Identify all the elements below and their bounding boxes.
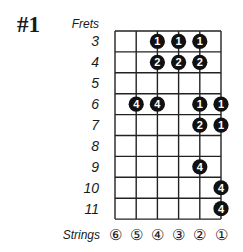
string-number-6: ⑥ bbox=[108, 227, 123, 242]
finger-number: 1 bbox=[218, 119, 224, 131]
finger-number: 2 bbox=[154, 56, 160, 68]
finger-number: 4 bbox=[133, 98, 140, 110]
finger-number: 2 bbox=[197, 56, 203, 68]
finger-number: 1 bbox=[176, 35, 182, 47]
finger-number: 4 bbox=[218, 182, 225, 194]
finger-number: 2 bbox=[197, 119, 203, 131]
string-number-4: ④ bbox=[150, 227, 165, 242]
finger-number: 1 bbox=[218, 98, 224, 110]
string-number-2: ② bbox=[192, 227, 207, 242]
finger-number: 4 bbox=[218, 203, 225, 215]
string-number-1: ① bbox=[214, 227, 229, 242]
string-number-3: ③ bbox=[171, 227, 186, 242]
string-number-5: ⑤ bbox=[129, 227, 144, 242]
finger-number: 1 bbox=[197, 98, 203, 110]
strings-label: Strings bbox=[56, 228, 100, 242]
finger-number: 2 bbox=[176, 56, 182, 68]
finger-number: 4 bbox=[197, 161, 204, 173]
fretboard-grid: 111222441121444 bbox=[0, 0, 243, 252]
finger-number: 1 bbox=[197, 35, 203, 47]
finger-number: 4 bbox=[154, 98, 161, 110]
finger-number: 1 bbox=[154, 35, 160, 47]
